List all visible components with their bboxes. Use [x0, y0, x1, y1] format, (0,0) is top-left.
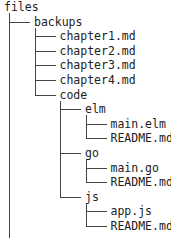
tree-connector — [60, 153, 81, 154]
tree-file[interactable]: chapter2.md — [60, 44, 136, 58]
tree-file[interactable]: chapter4.md — [60, 73, 136, 87]
tree-connector — [86, 168, 107, 169]
tree-connector — [35, 80, 56, 81]
tree-connector — [86, 138, 107, 139]
tree-folder[interactable]: code — [60, 88, 88, 102]
tree-file[interactable]: main.go — [111, 161, 159, 175]
tree-folder[interactable]: js — [85, 190, 99, 204]
tree-branch-line — [86, 203, 87, 227]
tree-connector — [86, 211, 107, 212]
tree-branch-line — [86, 115, 87, 139]
tree-branch-line — [35, 28, 36, 96]
tree-branch-line — [9, 13, 10, 238]
tree-file[interactable]: README.md — [111, 175, 172, 189]
tree-connector — [9, 22, 30, 23]
tree-connector — [86, 226, 107, 227]
tree-folder[interactable]: backups — [34, 15, 82, 29]
tree-connector — [60, 197, 81, 198]
tree-file[interactable]: app.js — [111, 204, 153, 218]
tree-connector — [86, 124, 107, 125]
tree-file[interactable]: README.md — [111, 219, 172, 233]
tree-file[interactable]: main.elm — [111, 117, 166, 131]
tree-connector — [60, 109, 81, 110]
tree-connector — [35, 95, 56, 96]
tree-file[interactable]: chapter1.md — [60, 29, 136, 43]
tree-file[interactable]: chapter3.md — [60, 58, 136, 72]
tree-folder[interactable]: go — [85, 146, 99, 160]
tree-connector — [35, 51, 56, 52]
tree-branch-line — [86, 159, 87, 183]
tree-branch-line — [60, 101, 61, 198]
tree-connector — [35, 36, 56, 37]
tree-file[interactable]: README.md — [111, 131, 172, 145]
tree-folder[interactable]: elm — [85, 102, 106, 116]
tree-connector — [35, 65, 56, 66]
tree-connector — [86, 182, 107, 183]
tree-root: files — [4, 0, 39, 14]
